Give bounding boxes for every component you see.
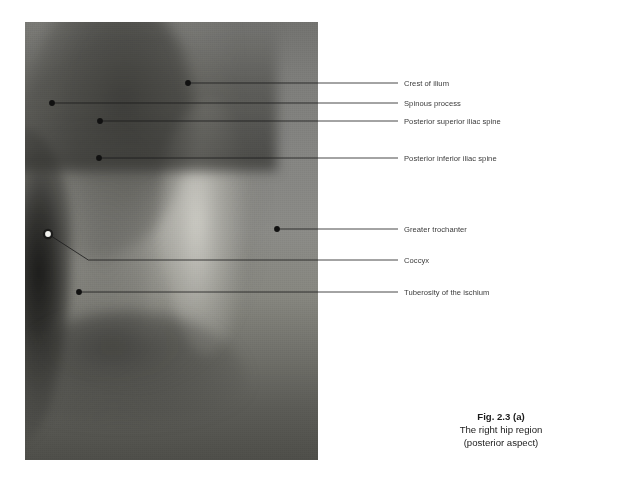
label-posterior-inferior-iliac-spine: Posterior inferior iliac spine <box>404 154 497 163</box>
caption-line-2: (posterior aspect) <box>396 436 606 449</box>
caption-line-1: The right hip region <box>396 423 606 436</box>
label-crest-of-ilium: Crest of ilium <box>404 79 449 88</box>
label-tuberosity-of-the-ischium: Tuberosity of the ischium <box>404 288 489 297</box>
caption-title: Fig. 2.3 (a) <box>396 410 606 423</box>
hip-region-photograph <box>25 22 318 460</box>
figure-container: Crest of iliumSpinous processPosterior s… <box>0 0 624 487</box>
figure-caption: Fig. 2.3 (a) The right hip region (poste… <box>396 410 606 450</box>
label-coccyx: Coccyx <box>404 256 429 265</box>
label-greater-trochanter: Greater trochanter <box>404 225 467 234</box>
photo-grain-texture <box>25 22 318 460</box>
label-spinous-process: Spinous process <box>404 99 461 108</box>
label-posterior-superior-iliac-spine: Posterior superior iliac spine <box>404 117 501 126</box>
